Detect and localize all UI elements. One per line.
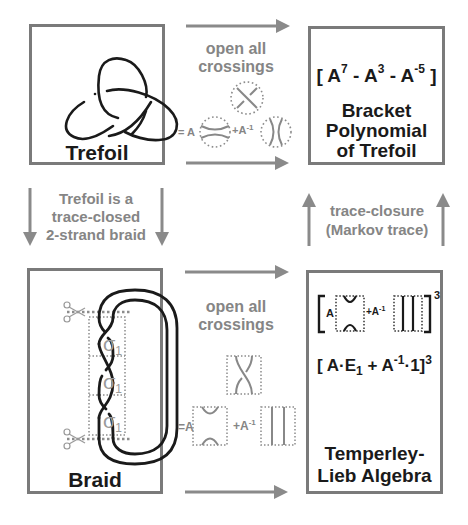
right-arrow-label: trace-closure (Markov trace) — [316, 201, 438, 239]
coef-a: A — [326, 307, 334, 319]
cup-cap-box-icon — [192, 406, 232, 450]
plus-a-inverse: +A-1 — [366, 306, 385, 317]
left-arrow-label: Trefoil is a trace-closed 2-strand braid — [36, 190, 156, 244]
label-line: crossings — [186, 316, 286, 334]
temperley-lieb-title: Temperley- Lieb Algebra — [309, 443, 440, 487]
label-line: 2-strand braid — [36, 226, 156, 244]
vertical-smoothing-icon — [256, 115, 296, 155]
sigma-3-label: σ1 — [103, 410, 122, 433]
plus-a-inverse: +A-1 — [232, 124, 254, 136]
big-bracket-right — [423, 295, 433, 335]
subscript: 1 — [115, 382, 122, 396]
label-line: open all — [186, 298, 286, 316]
exponent: -1 — [379, 305, 385, 312]
sigma: σ — [103, 410, 115, 432]
crossing-circle-icon — [229, 80, 269, 120]
tl-algebraic-formula: [ A·E1 + A-1·1]3 — [309, 356, 440, 376]
label-line: crossings — [186, 58, 286, 76]
braid-title: Braid — [30, 468, 160, 491]
var-a: A — [382, 356, 394, 375]
equals-a: = A — [178, 126, 195, 138]
label-line: trace-closure — [316, 201, 438, 220]
label-line: Trefoil is a — [36, 190, 156, 208]
subscript: 1 — [115, 421, 122, 435]
horizontal-smoothing-icon — [195, 115, 235, 155]
label-line: trace-closed — [36, 208, 156, 226]
identity: 1 — [410, 356, 419, 375]
exponent: -1 — [249, 418, 256, 427]
exponent: -1 — [246, 123, 253, 132]
plus-sign: + — [363, 356, 382, 375]
bracket-open: [ — [317, 356, 323, 375]
var-a: A — [327, 356, 339, 375]
subscript: 1 — [356, 364, 363, 378]
bottom-expansion: =A +A-1 — [190, 406, 310, 450]
identity-box-icon — [260, 406, 300, 450]
sigma-1-label: σ1 — [103, 333, 122, 356]
top-expansion: = A +A-1 — [178, 115, 298, 155]
top-arrow-label: open all crossings — [186, 40, 286, 76]
plus-a-inverse: +A-1 — [233, 419, 256, 433]
subscript: 1 — [115, 344, 122, 358]
sigma: σ — [103, 371, 115, 393]
label-line: (Markov trace) — [316, 220, 438, 239]
title-line: Lieb Algebra — [309, 465, 440, 487]
temperley-lieb-box: A +A-1 3 [ A·E1 + A-1·1]3 Temperley- Lie… — [306, 270, 443, 494]
power-3: 3 — [434, 289, 440, 301]
title-line: Temperley- — [309, 443, 440, 465]
plus-a: +A — [232, 124, 246, 136]
braid-box: σ1 σ1 σ1 Braid — [27, 268, 163, 494]
braid-diagram-icon — [27, 268, 163, 494]
identity-box-icon — [393, 295, 427, 335]
plus-a: +A — [233, 419, 249, 433]
exponent: 3 — [425, 353, 432, 367]
plus-a: +A — [366, 306, 379, 317]
bottom-arrow-label: open all crossings — [186, 298, 286, 334]
tl-diagram-formula: A +A-1 3 — [317, 295, 442, 339]
exponent: -1 — [394, 353, 405, 367]
braid-crossing-box-icon — [226, 355, 266, 399]
sigma: σ — [103, 333, 115, 355]
var-e: E — [345, 356, 356, 375]
cup-cap-box-icon — [335, 295, 369, 335]
sigma-2-label: σ1 — [103, 371, 122, 394]
label-line: open all — [186, 40, 286, 58]
